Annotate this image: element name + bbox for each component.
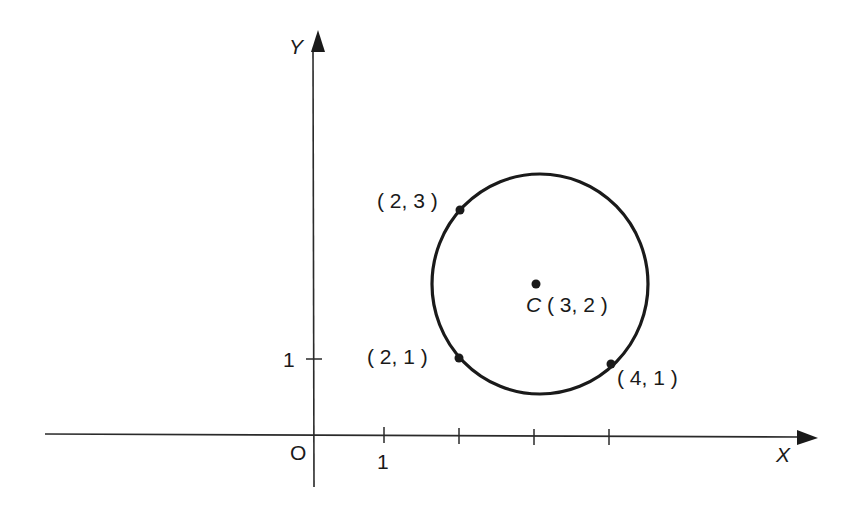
point-2-1 [455,354,464,363]
y-axis-arrow-icon [311,30,325,52]
center-label: C ( 3, 2 ) [526,294,608,315]
x-tick-label: 1 [377,451,389,472]
x-axis-arrow-icon [797,430,818,445]
y-tick-label: 1 [283,349,295,370]
center-coords: ( 3, 2 ) [547,293,608,316]
point-2-3 [456,206,465,215]
point-2-3-label: ( 2, 3 ) [377,190,438,211]
point-4-1-label: ( 4, 1 ) [617,367,678,388]
x-axis [45,430,818,445]
x-axis-label: X [776,444,790,465]
point-4-1 [607,360,616,369]
y-axis-label: Y [289,36,303,57]
point-2-1-label: ( 2, 1 ) [367,346,428,367]
coordinate-plane [0,0,861,515]
origin-label: O [290,442,306,463]
center-point [532,280,541,289]
y-axis [311,30,325,487]
center-name: C [526,293,541,316]
